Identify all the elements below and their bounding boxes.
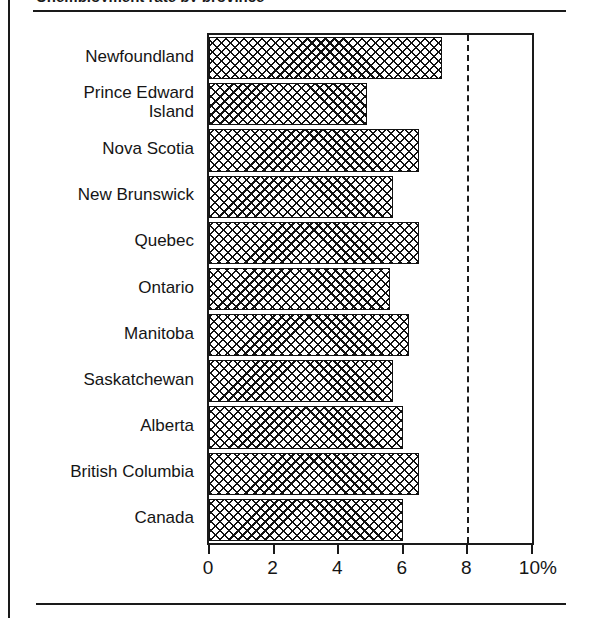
category-label: Canada [20,508,200,527]
bar-row [209,451,532,497]
bar [209,499,403,541]
axis-tick [466,545,468,554]
category-label: British Columbia [20,462,200,481]
bar [209,268,390,310]
plot-area [207,33,534,545]
axis-tick-label: 8 [461,557,472,579]
bar [209,222,419,264]
category-label: Manitoba [20,324,200,343]
bar-row [209,312,532,358]
chart-page: Unemployment rate by province Newfoundla… [0,0,603,618]
bar [209,176,393,218]
bar [209,37,442,79]
reference-line [467,35,469,543]
bar-row [209,404,532,450]
axis-tick-label: 10% [519,557,557,579]
bar-row [209,81,532,127]
axis-tick-label: 0 [203,557,214,579]
bar [209,453,419,495]
axis-tick [208,545,210,554]
bar [209,314,409,356]
category-label: Alberta [20,416,200,435]
axis-tick [337,545,339,554]
axis-tick-label: 2 [267,557,278,579]
bars-container [209,35,532,543]
category-label: Quebec [20,231,200,250]
axis-tick [531,545,533,554]
bar [209,360,393,402]
bar [209,83,367,125]
axis-tick [273,545,275,554]
category-label: Prince EdwardIsland [20,83,200,121]
bar [209,129,419,171]
value-axis: 0246810% [207,545,534,585]
category-label: New Brunswick [20,185,200,204]
category-label: Newfoundland [20,47,200,66]
bar-row [209,266,532,312]
bar-row [209,358,532,404]
bar-chart: NewfoundlandPrince EdwardIslandNova Scot… [0,0,603,618]
bar-row [209,220,532,266]
bar-row [209,35,532,81]
bar-row [209,127,532,173]
axis-tick-label: 6 [397,557,408,579]
category-axis-labels: NewfoundlandPrince EdwardIslandNova Scot… [20,33,200,545]
bar-row [209,497,532,543]
bar [209,406,403,448]
footer-rule [36,603,566,605]
axis-tick [402,545,404,554]
bar-row [209,174,532,220]
axis-tick-label: 4 [332,557,343,579]
category-label: Ontario [20,278,200,297]
category-label: Nova Scotia [20,139,200,158]
category-label: Saskatchewan [20,370,200,389]
